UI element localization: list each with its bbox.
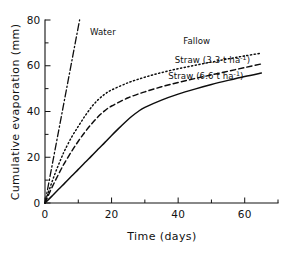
series-label-suffix: ): [247, 55, 250, 65]
series-label-3: Straw (6.6 t ha-1): [168, 70, 243, 81]
y-axis-tick-label: 60: [27, 59, 41, 71]
y-axis-tick-label: 0: [34, 197, 41, 209]
series-label-suffix: ): [240, 71, 243, 81]
series-label-2: Straw (3.3 t ha-1): [175, 54, 250, 65]
y-axis-title: Cumulative evaporation (mm): [9, 24, 22, 201]
y-axis-tick-label: 80: [27, 14, 41, 26]
y-axis-tick-label: 20: [27, 151, 41, 163]
series-label-text: Straw (6.6 t ha: [168, 71, 233, 81]
x-axis-title: Time (days): [126, 230, 196, 243]
x-axis-tick-label: 20: [105, 208, 119, 220]
chart-plot-area: 020406080 0204060 Cumulative evaporation…: [0, 0, 300, 254]
x-axis-tick-label: 60: [238, 208, 252, 220]
data-series-curves: [45, 20, 261, 203]
chart-figure: 020406080 0204060 Cumulative evaporation…: [0, 0, 300, 254]
series-label-0: Water: [90, 27, 116, 37]
series-curve-3: [45, 73, 261, 203]
x-axis-ticks: [45, 198, 278, 204]
y-axis-tick-labels: 020406080: [27, 14, 41, 209]
series-curve-2: [45, 64, 261, 203]
series-label-text: Straw (3.3 t ha: [175, 55, 240, 65]
series-inline-labels: WaterFallowStraw (3.3 t ha-1)Straw (6.6 …: [90, 27, 250, 82]
x-axis-tick-label: 40: [171, 208, 185, 220]
series-label-1: Fallow: [183, 36, 210, 46]
y-axis-tick-label: 40: [27, 105, 41, 117]
x-axis-tick-label: 0: [42, 208, 49, 220]
x-axis-tick-labels: 0204060: [42, 208, 252, 220]
